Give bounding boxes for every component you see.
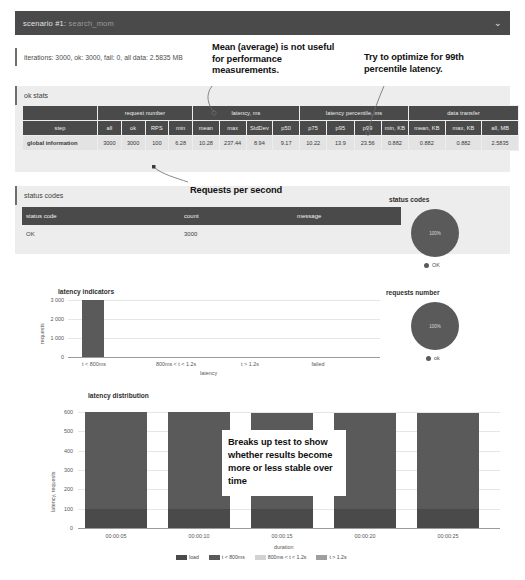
col-mean: mean	[193, 121, 220, 136]
col-max-kb: max, KB	[445, 121, 482, 136]
col-all: all	[98, 121, 122, 136]
requests-number-pie-title: requests number	[386, 289, 440, 296]
legend-item-load[interactable]: load	[176, 554, 199, 560]
group-header-data-transfer: data transfer	[409, 106, 519, 121]
latency-indicators-x-axis	[68, 357, 380, 358]
cell-stddev: 8.94	[246, 136, 273, 151]
latency-indicators-xtick-1: 800ms < t < 1.2s	[134, 361, 218, 367]
latency-distribution-bar-2-load[interactable]	[251, 509, 313, 528]
latency-distribution-ytick-200: 200	[55, 486, 73, 492]
cell-mean-kb: 0.882	[409, 136, 446, 151]
cell-min: 6.28	[169, 136, 193, 151]
status-codes-table: status code count message OK 3000	[22, 207, 401, 243]
cell-all: 3000	[98, 136, 122, 151]
requests-number-pie-value-label: 100%	[429, 324, 441, 329]
latency-indicators-xtick-3: failed	[290, 361, 346, 367]
col-min-kb: min, KB	[381, 121, 408, 136]
legend-swatch-icon	[209, 555, 220, 560]
latency-distribution-ylabel: latency, requests	[50, 472, 56, 512]
latency-indicators-ytick-0: 0	[44, 354, 64, 360]
stats-column-header-row: step all ok RPS min mean max StdDev p50 …	[23, 121, 519, 136]
scenario-header-bar[interactable]: scenario #1: search_mom ⌄	[15, 11, 510, 35]
col-p99: p99	[354, 121, 381, 136]
latency-indicators-title: latency indicators	[58, 288, 114, 295]
col-min: min	[169, 121, 193, 136]
latency-distribution-xtick-3: 00:00:20	[335, 533, 395, 539]
latency-distribution-bar-0-t800[interactable]	[85, 412, 147, 509]
cell-all-mb: 2.5835	[482, 136, 519, 151]
latency-distribution-legend: load t < 800ms 800ms < t < 1.2s t > 1.2s	[176, 554, 353, 560]
latency-indicators-ytick-1000: 1 000	[44, 335, 64, 341]
group-header-request-number: request number	[98, 106, 193, 121]
report-page: scenario #1: search_mom ⌄ iterations: 30…	[0, 0, 525, 580]
requests-number-pie-slice-ok[interactable]: 100%	[411, 302, 459, 350]
latency-distribution-bar-3-load[interactable]	[334, 509, 396, 528]
col-step: step	[23, 121, 98, 136]
legend-item-gt12[interactable]: t > 1.2s	[316, 554, 346, 560]
cell-p95: 13.9	[327, 136, 354, 151]
cell-status-code: OK	[22, 225, 180, 243]
group-header-latency-percentile: latency percentile, ms	[300, 106, 409, 121]
stats-group-header-row: request number latency, ms latency perce…	[23, 106, 519, 121]
status-codes-pie-legend: OK	[424, 262, 440, 268]
annotation-mean: Mean (average) is not useful for perform…	[212, 42, 344, 77]
cell-ok: 3000	[121, 136, 145, 151]
latency-distribution-ytick-300: 300	[55, 467, 73, 473]
latency-distribution-x-axis	[78, 528, 500, 529]
cell-count: 3000	[180, 225, 293, 243]
group-header-blank	[23, 106, 98, 121]
col-ok: ok	[121, 121, 145, 136]
gridline	[68, 338, 380, 339]
cell-min-kb: 0.882	[381, 136, 408, 151]
col-rps: RPS	[145, 121, 169, 136]
col-p50: p50	[273, 121, 300, 136]
status-codes-pie-legend-label: OK	[432, 262, 440, 268]
table-row: global information 3000 3000 100 6.28 10…	[23, 136, 519, 151]
col-message: message	[293, 207, 401, 225]
status-codes-header-row: status code count message	[22, 207, 401, 225]
annotation-p99: Try to optimize for 99th percentile late…	[364, 52, 492, 75]
status-codes-pie-value-label: 100%	[429, 231, 441, 236]
legend-swatch-icon	[426, 356, 431, 361]
legend-item-t800[interactable]: t < 800ms	[209, 554, 245, 560]
ok-stats-panel: ok stats request number latency, ms late…	[15, 86, 510, 172]
latency-distribution-xtick-4: 00:00:25	[418, 533, 478, 539]
legend-swatch-icon	[255, 555, 266, 560]
latency-indicators-bar-0[interactable]	[82, 300, 104, 357]
cell-message	[293, 225, 401, 243]
legend-label-gt12: t > 1.2s	[329, 554, 346, 560]
cell-step: global information	[23, 136, 98, 151]
gridline	[68, 300, 380, 301]
requests-number-pie-legend-label: ok	[434, 355, 440, 361]
legend-item-800-1200[interactable]: 800ms < t < 1.2s	[255, 554, 307, 560]
scenario-name: search_mom	[69, 19, 114, 28]
status-codes-pie-slice-ok[interactable]: 100%	[411, 209, 459, 257]
latency-indicators-xtick-2: t > 1.2s	[222, 361, 278, 367]
latency-indicators-ytick-3000: 3 000	[44, 297, 64, 303]
legend-swatch-icon	[424, 263, 429, 268]
latency-indicators-ytick-2000: 2 000	[44, 316, 64, 322]
latency-indicators-xlabel: latency	[200, 370, 217, 376]
col-max: max	[219, 121, 246, 136]
latency-distribution-bar-1-t800[interactable]	[168, 412, 230, 509]
latency-distribution-ytick-0: 0	[55, 525, 73, 531]
latency-distribution-bar-4-load[interactable]	[417, 509, 479, 528]
scenario-prefix: scenario #1:	[23, 19, 66, 28]
latency-distribution-ytick-100: 100	[55, 506, 73, 512]
chevron-down-icon[interactable]: ⌄	[494, 19, 502, 28]
annotation-breaks: Breaks up test to show whether results b…	[222, 430, 346, 496]
latency-distribution-bar-1-load[interactable]	[168, 509, 230, 528]
col-all-mb: all, MB	[482, 121, 519, 136]
group-header-latency: latency, ms	[193, 106, 300, 121]
status-codes-pie-title: status codes	[389, 196, 429, 203]
cell-p75: 10.22	[300, 136, 327, 151]
latency-distribution-xtick-2: 00:00:15	[252, 533, 312, 539]
latency-distribution-bar-0-load[interactable]	[85, 509, 147, 528]
annotation-rps: Requests per second	[190, 185, 330, 197]
ok-stats-table: request number latency, ms latency perce…	[22, 105, 519, 151]
latency-distribution-title: latency distribution	[88, 392, 149, 399]
latency-distribution-bar-4-t800[interactable]	[417, 413, 479, 509]
col-p75: p75	[300, 121, 327, 136]
legend-swatch-icon	[176, 555, 187, 560]
latency-distribution-xtick-0: 00:00:05	[86, 533, 146, 539]
